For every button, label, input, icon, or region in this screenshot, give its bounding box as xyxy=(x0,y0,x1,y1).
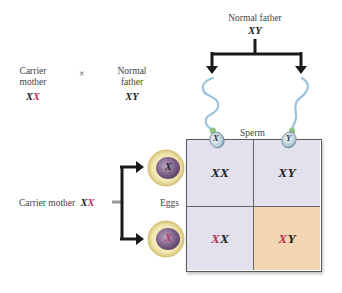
arrow-down-icon xyxy=(206,66,218,74)
diagram-graphics xyxy=(0,0,342,293)
egg-bottom-label: X xyxy=(165,232,172,243)
eggs-caption: Eggs xyxy=(160,198,179,209)
sperm-caption: Sperm xyxy=(240,128,265,139)
egg-top-label: X xyxy=(165,161,172,172)
sperm-y-label: Y xyxy=(286,133,291,143)
arrow-right-icon xyxy=(136,161,144,173)
mother-bracket-arrows xyxy=(120,166,137,240)
sperm-x-label: X xyxy=(213,133,219,143)
father-bracket-arrows xyxy=(212,39,301,67)
arrow-right-icon xyxy=(136,233,144,245)
arrow-down-icon xyxy=(295,66,307,74)
sperm-y-icon xyxy=(279,78,308,150)
